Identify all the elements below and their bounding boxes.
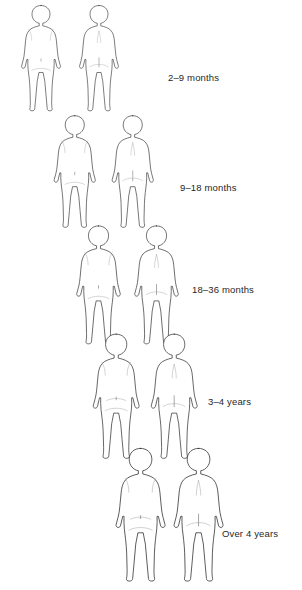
body-figure-front	[66, 222, 131, 347]
body-figure-front	[12, 2, 70, 113]
age-group-label: 2–9 months	[168, 72, 219, 83]
body-figure-back	[140, 330, 208, 461]
age-group-label: 9–18 months	[180, 182, 237, 193]
body-figure-back	[124, 222, 189, 347]
body-figure-back	[102, 112, 163, 230]
body-figure-front	[44, 112, 105, 230]
body-figure-back	[162, 444, 235, 584]
age-group-label: 3–4 years	[208, 396, 251, 407]
age-group-label: Over 4 years	[222, 528, 278, 539]
body-figure-back	[70, 2, 128, 113]
eczema-distribution-figure: 2–9 months9–18 months18–36 months3–4 yea…	[0, 0, 302, 590]
age-group-label: 18–36 months	[192, 284, 254, 295]
